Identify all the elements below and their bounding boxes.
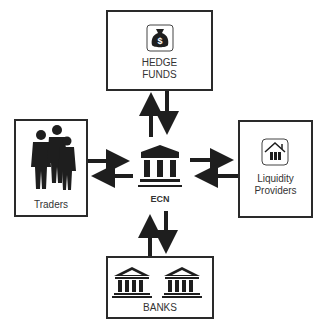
liquidity-providers-node: Liquidity Providers xyxy=(238,120,313,218)
bank-building-icon xyxy=(112,265,208,299)
ecn-label: ECN xyxy=(140,193,180,205)
liquidity-label-1: Liquidity xyxy=(240,173,311,185)
ecn-building-icon xyxy=(138,145,182,187)
banks-node: BANKS xyxy=(106,256,214,319)
liquidity-label-2: Providers xyxy=(240,185,311,197)
traders-node: Traders xyxy=(14,119,88,217)
money-bag-icon: $ xyxy=(146,24,174,52)
svg-text:$: $ xyxy=(157,36,162,46)
hedge-funds-label-2: FUNDS xyxy=(108,69,211,81)
house-icon xyxy=(261,138,289,166)
hedge-funds-label-1: HEDGE xyxy=(108,57,211,69)
hedge-funds-node: $ HEDGE FUNDS xyxy=(106,10,213,91)
banks-label: BANKS xyxy=(108,302,212,314)
people-icon xyxy=(22,125,82,191)
traders-label: Traders xyxy=(16,199,86,211)
